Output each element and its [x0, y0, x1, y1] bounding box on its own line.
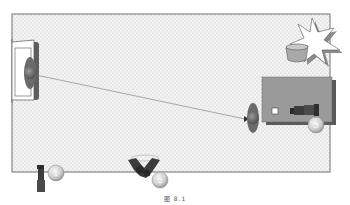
person-left-icon [24, 57, 36, 89]
camera-1-icon [37, 165, 45, 192]
camera-2-badge[interactable]: 2 [152, 172, 168, 188]
svg-text:3: 3 [313, 121, 318, 130]
figure-caption: 图 8.1 [0, 194, 350, 203]
svg-text:1: 1 [53, 169, 58, 178]
camera-setup-diagram: 3 1 2 [0, 0, 350, 205]
table-icon [262, 77, 336, 125]
svg-text:2: 2 [157, 176, 162, 185]
camera-1-badge[interactable]: 1 [48, 165, 64, 181]
camera-3-badge[interactable]: 3 [308, 117, 324, 133]
person-right-icon [247, 103, 259, 133]
cup-icon [272, 108, 278, 114]
